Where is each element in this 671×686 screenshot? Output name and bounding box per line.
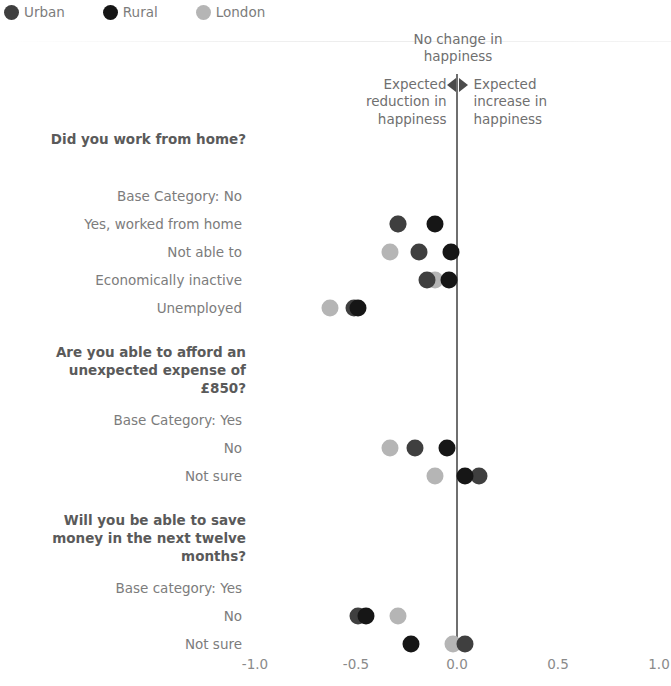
x-axis-tick: 0.0	[446, 656, 467, 672]
row-label: Not able to	[167, 244, 242, 260]
chart-root: UrbanRuralLondon No change in happiness …	[0, 0, 671, 686]
data-point-london[interactable]	[321, 300, 338, 317]
data-point-rural[interactable]	[350, 300, 367, 317]
plot-area: Did you work from home?Base Category: No…	[0, 0, 671, 686]
data-point-urban[interactable]	[410, 244, 427, 261]
row-label: Economically inactive	[95, 272, 242, 288]
x-axis: -1.0-0.50.00.51.0	[0, 656, 671, 680]
row-label: Yes, worked from home	[84, 216, 242, 232]
x-axis-tick: 0.5	[547, 656, 568, 672]
x-axis-tick: 1.0	[648, 656, 669, 672]
data-point-rural[interactable]	[440, 272, 457, 289]
section-title: Are you able to afford an unexpected exp…	[31, 344, 246, 397]
data-point-urban[interactable]	[418, 272, 435, 289]
data-point-rural[interactable]	[426, 216, 443, 233]
section-title: Did you work from home?	[46, 131, 246, 149]
data-point-urban[interactable]	[406, 440, 423, 457]
base-category-label: Base category: Yes	[116, 580, 242, 596]
x-axis-tick: -0.5	[343, 656, 369, 672]
section-title: Will you be able to save money in the ne…	[31, 512, 246, 565]
row-label: Not sure	[185, 636, 242, 652]
data-point-london[interactable]	[382, 244, 399, 261]
data-point-rural[interactable]	[457, 468, 474, 485]
data-point-urban[interactable]	[457, 636, 474, 653]
row-label: No	[224, 440, 242, 456]
row-label: Not sure	[185, 468, 242, 484]
row-label: No	[224, 608, 242, 624]
x-axis-tick: -1.0	[242, 656, 268, 672]
row-label: Unemployed	[157, 300, 242, 316]
base-category-label: Base Category: No	[117, 188, 242, 204]
data-point-london[interactable]	[382, 440, 399, 457]
data-point-rural[interactable]	[402, 636, 419, 653]
data-point-rural[interactable]	[358, 608, 375, 625]
data-point-london[interactable]	[426, 468, 443, 485]
data-point-urban[interactable]	[390, 216, 407, 233]
base-category-label: Base Category: Yes	[114, 412, 242, 428]
data-point-rural[interactable]	[438, 440, 455, 457]
data-point-rural[interactable]	[442, 244, 459, 261]
data-point-london[interactable]	[390, 608, 407, 625]
